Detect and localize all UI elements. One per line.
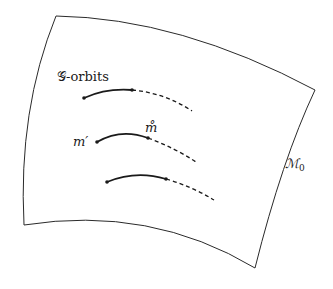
orbit-1-dashed bbox=[132, 90, 192, 111]
orbit-1-mid-point bbox=[130, 88, 134, 92]
label-manifold-subscript: 0 bbox=[299, 163, 305, 173]
orbit-3-start-point bbox=[105, 180, 109, 184]
orbit-3 bbox=[105, 175, 214, 200]
orbit-3-mid-point bbox=[164, 177, 168, 181]
label-manifold: ℳ0 bbox=[285, 156, 305, 173]
point-m-prime bbox=[95, 140, 99, 144]
label-m-ring: m̊ bbox=[145, 120, 157, 135]
orbit-3-dashed bbox=[166, 179, 214, 200]
orbit-2-dashed bbox=[148, 138, 196, 162]
label-g-orbits: 𝒢-orbits bbox=[57, 69, 109, 84]
orbit-1-start-point bbox=[82, 96, 86, 100]
diagram-canvas: 𝒢-orbits m′ m̊ ℳ0 bbox=[0, 0, 333, 289]
label-m-prime: m′ bbox=[73, 134, 88, 149]
orbit-1-solid bbox=[84, 90, 132, 98]
point-m-ring bbox=[146, 136, 150, 140]
orbit-3-solid bbox=[107, 175, 166, 182]
orbit-2 bbox=[95, 134, 196, 162]
orbit-2-solid bbox=[97, 134, 148, 142]
manifold-boundary bbox=[23, 16, 315, 268]
orbit-1 bbox=[82, 88, 192, 111]
